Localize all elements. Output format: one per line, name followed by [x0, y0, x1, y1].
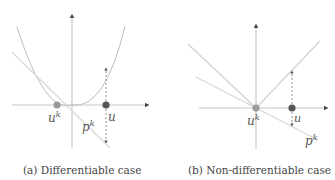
- panel-b-non-differentiable: uk pk u: [188, 26, 326, 149]
- point-u: [102, 101, 109, 108]
- caption-b: (b) Non-differentiable case: [188, 164, 331, 176]
- caption-a: (a) Differentiable case: [23, 164, 141, 176]
- abs-left-branch: [188, 44, 256, 108]
- figure-canvas: uk pk u uk pk u: [0, 0, 335, 180]
- label-u: u: [294, 112, 301, 125]
- label-uk: uk: [247, 113, 260, 128]
- label-pk: pk: [305, 133, 318, 148]
- tangent-line: [12, 52, 110, 148]
- label-u: u: [108, 110, 116, 124]
- parabola-curve: [17, 26, 125, 106]
- point-u: [288, 104, 295, 111]
- abs-right-branch: [256, 41, 320, 108]
- point-uk: [53, 101, 60, 108]
- label-uk: uk: [48, 110, 61, 125]
- panel-a-differentiable: uk pk u: [12, 16, 147, 148]
- point-uk: [252, 104, 259, 111]
